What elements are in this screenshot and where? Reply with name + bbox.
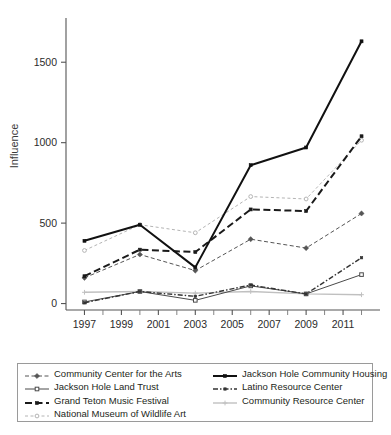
data-point-marker <box>360 135 363 138</box>
legend-item-label: Community Center for the Arts <box>54 368 182 380</box>
data-point-marker <box>83 302 85 304</box>
data-point-marker <box>305 146 308 149</box>
series-line <box>84 140 361 250</box>
x-axis-tick-label: 2003 <box>184 318 208 330</box>
data-point-marker <box>35 414 39 418</box>
legend-item[interactable]: Jackson Hole Community Housing <box>212 367 372 381</box>
legend-item-label: Community Resource Center <box>242 395 365 407</box>
data-point-marker <box>304 197 308 201</box>
data-point-marker <box>194 251 197 254</box>
data-point-marker <box>193 231 197 235</box>
data-point-marker <box>139 290 141 292</box>
data-point-marker <box>138 248 141 251</box>
x-axis-tick-label: 2005 <box>221 318 245 330</box>
legend-item-label: Jackson Hole Land Trust <box>54 381 159 393</box>
x-axis-tick-label: 1999 <box>110 318 134 330</box>
data-point-marker <box>83 275 86 278</box>
chart-canvas: 0500100015001997199920012003200520072009… <box>0 0 391 340</box>
x-axis-tick-label: 2011 <box>332 318 355 330</box>
legend-line-sample-icon <box>24 368 50 380</box>
data-point-marker <box>305 210 308 213</box>
data-point-marker <box>250 284 252 286</box>
data-point-marker <box>137 252 142 257</box>
legend-line-sample-icon <box>24 381 50 393</box>
legend-line-sample-icon <box>212 368 238 380</box>
x-axis-tick-label: 2007 <box>257 318 281 330</box>
data-point-marker <box>249 208 252 211</box>
data-point-marker <box>83 249 87 253</box>
y-axis-title: Influence <box>8 124 20 169</box>
series-line <box>84 41 361 267</box>
series-jackson-hole-community-housing <box>83 40 363 269</box>
data-point-marker <box>224 374 227 377</box>
y-axis-tick-label: 500 <box>39 217 57 229</box>
data-point-marker <box>224 388 226 390</box>
data-series-group <box>82 40 364 304</box>
legend-item-label: Jackson Hole Community Housing <box>242 368 387 380</box>
data-point-marker <box>359 211 364 216</box>
legend-line-sample-icon <box>24 395 50 407</box>
data-point-marker <box>83 239 86 242</box>
axes: 0500100015001997199920012003200520072009… <box>34 18 380 330</box>
legend-item-label: Grand Teton Music Festival <box>54 395 169 407</box>
legend-item[interactable]: Grand Teton Music Festival <box>24 394 210 408</box>
data-point-marker <box>194 295 196 297</box>
y-axis-tick-label: 1000 <box>34 136 58 148</box>
plot-area: 0500100015001997199920012003200520072009… <box>0 0 391 340</box>
data-point-marker <box>36 401 39 404</box>
series-latino-resource-center <box>83 257 362 304</box>
data-point-marker <box>193 291 198 296</box>
series-line <box>84 275 361 302</box>
data-point-marker <box>248 289 253 294</box>
data-point-marker <box>249 195 253 199</box>
legend-item[interactable]: Community Center for the Arts <box>24 367 210 381</box>
data-point-marker <box>82 290 87 295</box>
y-axis-tick-label: 0 <box>51 297 57 309</box>
legend-item-label: National Museum of Wildlife Art <box>54 408 186 420</box>
data-point-marker <box>249 164 252 167</box>
legend: Community Center for the ArtsJackson Hol… <box>17 363 373 422</box>
series-line <box>84 213 361 277</box>
legend-line-sample-icon <box>212 395 238 407</box>
legend-column-left: Community Center for the ArtsJackson Hol… <box>24 367 210 421</box>
data-point-marker <box>360 40 363 43</box>
series-jackson-hole-land-trust <box>83 273 364 304</box>
legend-item[interactable]: National Museum of Wildlife Art <box>24 408 210 422</box>
legend-column-right: Jackson Hole Community HousingLatino Res… <box>212 367 372 408</box>
legend-item-label: Latino Resource Center <box>242 381 342 393</box>
data-point-marker <box>138 223 141 226</box>
data-point-marker <box>360 257 362 259</box>
y-axis-title-text: Influence <box>8 124 20 169</box>
series-line <box>84 258 361 303</box>
data-point-marker <box>248 237 253 242</box>
x-axis-tick-label: 2001 <box>147 318 171 330</box>
data-point-marker <box>34 373 39 378</box>
legend-line-sample-icon <box>212 381 238 393</box>
data-point-marker <box>193 299 197 303</box>
series-grand-teton-music-festival <box>83 135 363 278</box>
legend-item[interactable]: Community Resource Center <box>212 394 372 408</box>
legend-item[interactable]: Latino Resource Center <box>212 381 372 395</box>
data-point-marker <box>223 400 228 405</box>
legend-item[interactable]: Jackson Hole Land Trust <box>24 381 210 395</box>
series-community-center-for-the-arts <box>82 211 364 281</box>
data-point-marker <box>35 387 39 391</box>
x-axis-tick-label: 1997 <box>73 318 97 330</box>
data-point-marker <box>304 245 309 250</box>
series-national-museum-of-wildlife-art <box>83 138 364 252</box>
data-point-marker <box>305 293 307 295</box>
data-point-marker <box>194 266 197 269</box>
legend-line-sample-icon <box>24 408 50 420</box>
data-point-marker <box>359 292 364 297</box>
x-axis-tick-label: 2009 <box>294 318 318 330</box>
data-point-marker <box>360 273 364 277</box>
influence-line-chart: 0500100015001997199920012003200520072009… <box>0 0 391 435</box>
y-axis-tick-label: 1500 <box>34 56 58 68</box>
